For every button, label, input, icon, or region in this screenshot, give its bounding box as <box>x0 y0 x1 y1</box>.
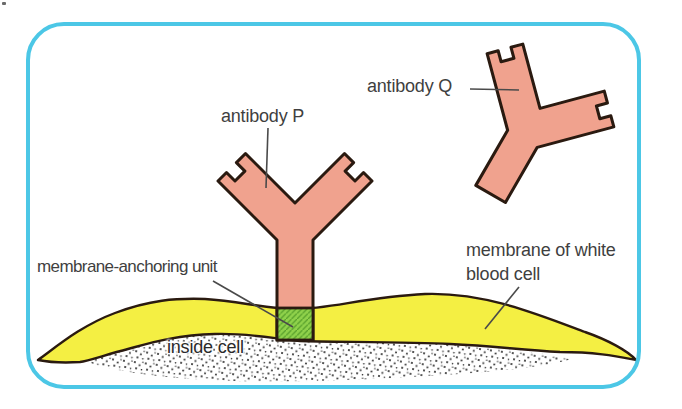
membrane-label-line1: membrane of white <box>466 238 616 262</box>
antibody-q-label: antibody Q <box>367 76 452 97</box>
antibody-q-shape <box>427 31 627 230</box>
figure-canvas: antibody P antibody Q membrane-anchoring… <box>0 0 682 409</box>
antibody-p-label: antibody P <box>221 106 304 127</box>
membrane-label-line2: blood cell <box>466 262 616 286</box>
anchor-unit-label: membrane-anchoring unit <box>37 256 217 277</box>
anchor-unit-shape <box>277 308 313 340</box>
inside-cell-label: inside cell <box>167 337 244 358</box>
antibody-q-pointer-line <box>470 89 519 90</box>
membrane-label: membrane of white blood cell <box>466 238 616 286</box>
scan-speck <box>2 2 6 5</box>
diagram-artwork <box>0 0 682 409</box>
